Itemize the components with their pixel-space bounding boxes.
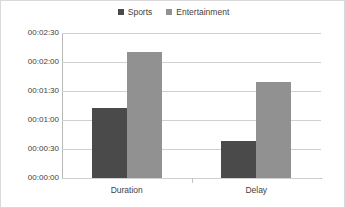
legend-label-entertainment: Entertainment [176, 8, 229, 17]
x-axis-tick-label: Delay [192, 186, 322, 195]
bar-chart: Sports Entertainment 00:02:3000:02:0000:… [0, 0, 345, 208]
x-axis-category-divider [192, 178, 193, 183]
y-axis-tick-label: 00:02:30 [3, 29, 59, 37]
y-axis-tick-label: 00:02:00 [3, 58, 59, 66]
plot-area [62, 33, 321, 178]
legend-entry-entertainment[interactable]: Entertainment [166, 8, 229, 17]
x-axis-tick-label: Duration [62, 186, 192, 195]
legend-entry-sports[interactable]: Sports [118, 8, 153, 17]
bar-sports-duration[interactable] [92, 108, 127, 178]
y-axis-tick-label: 00:00:30 [3, 145, 59, 153]
legend-swatch-sports-icon [118, 9, 124, 15]
y-axis-tick-label: 00:00:00 [3, 174, 59, 182]
y-axis-tick-label: 00:01:00 [3, 116, 59, 124]
bar-entertainment-delay[interactable] [256, 82, 291, 178]
legend-label-sports: Sports [128, 8, 153, 17]
y-axis-labels: 00:02:3000:02:0000:01:3000:01:0000:00:30… [1, 1, 59, 208]
bar-sports-delay[interactable] [221, 141, 256, 178]
bar-group-delay [192, 33, 322, 178]
y-axis-tick-label: 00:01:30 [3, 87, 59, 95]
bar-group-duration [62, 33, 192, 178]
bar-entertainment-duration[interactable] [127, 52, 162, 178]
legend-swatch-entertainment-icon [166, 9, 172, 15]
